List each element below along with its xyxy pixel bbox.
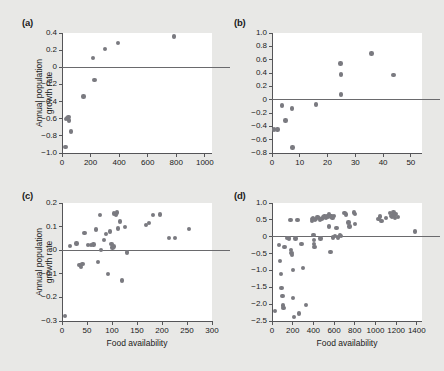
y-tick-label-3-4: −1.0	[251, 265, 267, 274]
y-tick-3-6	[269, 304, 273, 305]
data-point	[279, 286, 283, 290]
data-point	[318, 236, 322, 240]
figure-panel-grid: (a)0.40.20−0.2−0.4−0.6−0.8−1.00200400600…	[0, 0, 444, 371]
x-tick-label-3-2: 400	[307, 326, 320, 335]
x-tick-label-3-4: 800	[348, 326, 361, 335]
panel-d: (d)1.00.50−0.5−1.0−1.5−2.0−2.50200400600…	[0, 0, 444, 371]
x-tick-label-3-1: 200	[286, 326, 299, 335]
y-tick-3-0	[269, 203, 273, 204]
data-point	[280, 294, 284, 298]
data-point	[281, 306, 285, 310]
data-point	[378, 214, 382, 218]
x-tick-label-3-7: 1400	[408, 326, 426, 335]
x-tick-3-2	[313, 321, 314, 325]
y-tick-label-3-7: −2.5	[251, 316, 267, 325]
y-tick-label-3-3: −0.5	[251, 249, 267, 258]
y-tick-3-1	[269, 219, 273, 220]
y-tick-3-5	[269, 287, 273, 288]
x-tick-label-3-0: 0	[270, 326, 274, 335]
data-point	[299, 242, 303, 246]
data-point	[334, 226, 338, 230]
x-tick-3-1	[292, 321, 293, 325]
x-axis-title-3: Food availability	[317, 338, 378, 348]
x-tick-label-3-3: 600	[327, 326, 340, 335]
y-tick-3-4	[269, 270, 273, 271]
y-tick-label-3-2: 0	[263, 232, 267, 241]
x-tick-3-4	[354, 321, 355, 325]
x-tick-3-7	[416, 321, 417, 325]
x-axis-3	[272, 321, 422, 322]
data-point	[297, 311, 301, 315]
x-tick-3-3	[334, 321, 335, 325]
y-tick-label-3-5: −1.5	[251, 282, 267, 291]
x-tick-3-0	[272, 321, 273, 325]
panel-label-d: (d)	[234, 190, 246, 201]
data-point	[287, 236, 291, 240]
data-point	[311, 233, 315, 237]
x-tick-3-6	[396, 321, 397, 325]
data-point	[344, 212, 348, 216]
x-tick-3-5	[375, 321, 376, 325]
data-point	[353, 212, 357, 216]
x-tick-label-3-6: 1200	[387, 326, 405, 335]
data-point	[288, 218, 292, 222]
data-point	[295, 218, 299, 222]
y-tick-3-3	[269, 253, 273, 254]
y-tick-label-3-6: −2.0	[251, 299, 267, 308]
data-point	[291, 268, 295, 272]
data-point	[347, 224, 351, 228]
data-point	[293, 236, 297, 240]
data-point	[312, 245, 316, 249]
data-point	[327, 224, 331, 228]
y-tick-label-3-0: 1.0	[256, 198, 267, 207]
data-point	[282, 245, 286, 249]
x-tick-label-3-5: 1000	[367, 326, 385, 335]
y-tick-label-3-1: 0.5	[256, 215, 267, 224]
